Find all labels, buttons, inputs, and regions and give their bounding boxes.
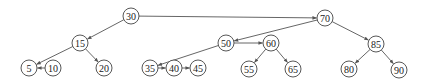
tree-node-15: 15 [72,35,88,51]
node-label: 20 [99,63,109,74]
node-label: 15 [75,38,85,49]
nodes-layer: 3070155060855102035404555658090 [21,8,407,78]
tree-node-85: 85 [368,36,384,52]
node-label: 55 [244,64,254,75]
node-label: 85 [371,39,381,50]
tree-node-65: 65 [285,61,301,77]
edge-30-to-15 [88,20,124,39]
edge-60-to-65 [276,49,287,62]
node-label: 60 [266,38,276,49]
tree-diagram: 3070155060855102035404555658090 [0,0,423,80]
tree-node-40: 40 [166,60,182,76]
edge-30-to-70 [139,16,317,18]
tree-node-80: 80 [341,61,357,77]
tree-node-20: 20 [96,60,112,76]
node-label: 30 [126,11,136,22]
edge-60-to-55 [255,49,266,62]
edge-50-to-35 [158,46,218,66]
node-label: 35 [145,63,155,74]
tree-node-55: 55 [241,61,257,77]
tree-node-5: 5 [21,60,37,76]
edge-70-to-85 [332,22,368,40]
node-label: 70 [320,13,330,24]
node-label: 40 [169,63,179,74]
tree-node-35: 35 [142,60,158,76]
node-label: 5 [27,63,32,74]
tree-node-70: 70 [317,10,333,26]
node-label: 90 [394,65,404,76]
diagram-canvas: 3070155060855102035404555658090 [0,0,423,80]
node-label: 45 [193,63,203,74]
tree-node-30: 30 [123,8,139,24]
tree-node-45: 45 [190,60,206,76]
node-label: 10 [48,63,58,74]
tree-node-50: 50 [218,35,234,51]
tree-node-90: 90 [391,62,407,78]
node-label: 65 [288,64,298,75]
tree-node-10: 10 [45,60,61,76]
node-label: 50 [221,38,231,49]
tree-node-60: 60 [263,35,279,51]
edge-85-to-90 [381,50,393,64]
edge-85-to-80 [355,49,370,63]
edges-layer [37,16,394,68]
edge-15-to-20 [86,49,99,62]
node-label: 80 [344,64,354,75]
